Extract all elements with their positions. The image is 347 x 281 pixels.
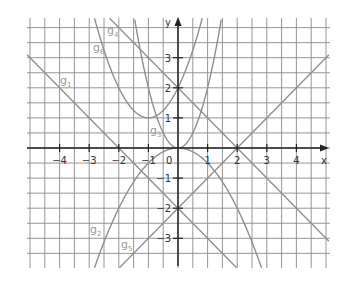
x-axis-label: x — [321, 155, 327, 166]
x-tick-label: −2 — [111, 155, 126, 166]
y-tick-label: 1 — [165, 113, 171, 124]
label-g6: g6 — [93, 41, 105, 56]
x-tick-label: −1 — [141, 155, 156, 166]
origin-label: 0 — [166, 155, 172, 166]
label-g1: g1 — [60, 74, 71, 89]
x-tick-label: 4 — [293, 155, 299, 166]
x-tick-label: 2 — [234, 155, 240, 166]
y-axis-label: y — [165, 17, 171, 28]
label-g5: g5 — [121, 238, 132, 253]
x-tick-label: −4 — [52, 155, 67, 166]
function-graph: x y 0 −4−3−2−11234321−1−2−3 g1g2g3g4g5g6 — [0, 0, 347, 281]
y-tick-label: 2 — [165, 83, 171, 94]
y-tick-label: −2 — [156, 203, 171, 214]
x-tick-label: 3 — [264, 155, 270, 166]
x-tick-label: −3 — [82, 155, 97, 166]
y-tick-label: −1 — [156, 173, 171, 184]
y-axis-arrow-icon — [175, 17, 182, 26]
label-g2: g2 — [90, 223, 101, 238]
y-tick-label: −3 — [156, 233, 171, 244]
x-axis-arrow-icon — [320, 145, 329, 152]
function-labels: g1g2g3g4g5g6 — [60, 24, 161, 253]
x-tick-label: 1 — [204, 155, 210, 166]
axes: x y 0 — [27, 17, 329, 266]
y-tick-label: 3 — [165, 53, 171, 64]
